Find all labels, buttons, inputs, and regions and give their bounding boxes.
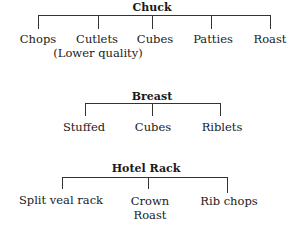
node-cubes: Cubes: [135, 121, 171, 133]
connector-tick: [220, 103, 221, 116]
node-patties: Patties: [193, 33, 233, 45]
connector-tick: [152, 103, 153, 116]
node-cutlets-note: (Lower quality): [53, 47, 142, 59]
tree-title-breast: Breast: [132, 91, 173, 103]
node-split-veal-rack: Split veal rack: [19, 194, 103, 206]
node-riblets: Riblets: [202, 121, 243, 133]
connector-tick: [211, 15, 212, 29]
node-stuffed: Stuffed: [63, 121, 105, 133]
connector-tick: [152, 15, 153, 29]
connector-line: [62, 177, 228, 178]
node-cutlets: Cutlets: [76, 33, 118, 45]
node-crown: Crown: [131, 195, 169, 207]
connector-tick: [148, 177, 149, 189]
connector-tick: [85, 103, 86, 116]
node-crown-roast: Roast: [134, 209, 167, 221]
node-chops: Chops: [20, 33, 56, 45]
tree-title-chuck: Chuck: [132, 2, 171, 14]
connector-line: [38, 15, 271, 16]
node-cubes: Cubes: [137, 33, 173, 45]
tree-title-hotel-rack: Hotel Rack: [112, 163, 181, 175]
node-rib-chops: Rib chops: [200, 195, 257, 207]
connector-tick: [62, 177, 63, 189]
connector-tick: [270, 15, 271, 29]
connector-tick: [38, 15, 39, 29]
connector-tick: [227, 177, 228, 193]
connector-tick: [98, 15, 99, 29]
node-roast: Roast: [254, 33, 287, 45]
